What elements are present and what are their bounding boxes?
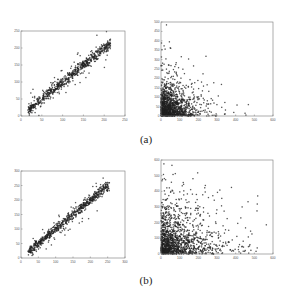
- plot-canvas: 01002003004005006000100200300400500600: [161, 160, 273, 254]
- x-tick-label: 600: [270, 118, 276, 122]
- y-tick-label: 150: [14, 213, 20, 217]
- y-tick-label: 250: [14, 29, 20, 33]
- x-tick-label: 200: [88, 260, 94, 264]
- y-tick-label: 200: [154, 221, 160, 225]
- x-tick-label: 0: [20, 118, 22, 122]
- x-tick-label: 300: [214, 118, 220, 122]
- data-points: [27, 31, 111, 116]
- scatter-plot-a-right: 0100200300400500600050100150200250300350…: [161, 22, 273, 116]
- x-tick-label: 0: [160, 256, 162, 260]
- y-tick-label: 450: [154, 29, 160, 33]
- y-tick-label: 400: [154, 39, 160, 43]
- y-tick-label: 0: [18, 256, 20, 260]
- x-tick-label: 150: [70, 260, 76, 264]
- y-tick-label: 250: [154, 67, 160, 71]
- y-tick-label: 0: [158, 252, 160, 256]
- data-points: [160, 163, 267, 255]
- y-tick-label: 200: [14, 198, 20, 202]
- caption-b: (b): [126, 274, 166, 286]
- x-tick-label: 200: [196, 118, 202, 122]
- y-tick-label: 0: [18, 114, 20, 118]
- y-tick-label: 200: [154, 76, 160, 80]
- y-tick-label: 500: [154, 20, 160, 24]
- y-tick-label: 400: [154, 189, 160, 193]
- y-tick-label: 50: [16, 97, 20, 101]
- y-tick-label: 200: [14, 46, 20, 50]
- y-tick-label: 350: [154, 48, 160, 52]
- x-tick-label: 0: [20, 260, 22, 264]
- x-tick-label: 200: [196, 256, 202, 260]
- plot-canvas: 050100150200250050100150200250: [21, 31, 125, 116]
- x-tick-label: 300: [214, 256, 220, 260]
- y-tick-label: 600: [154, 158, 160, 162]
- y-tick-label: 500: [154, 174, 160, 178]
- y-tick-label: 300: [154, 58, 160, 62]
- plot-canvas: 050100150200250300050100150200250300: [21, 171, 125, 258]
- caption-a: (a): [126, 133, 166, 145]
- x-tick-label: 500: [252, 118, 258, 122]
- x-tick-label: 200: [102, 118, 108, 122]
- y-tick-label: 150: [14, 63, 20, 67]
- y-tick-label: 300: [14, 169, 20, 173]
- y-tick-label: 50: [16, 242, 20, 246]
- x-tick-label: 250: [122, 118, 128, 122]
- x-tick-label: 400: [233, 256, 239, 260]
- y-tick-label: 150: [154, 86, 160, 90]
- y-tick-label: 50: [156, 105, 160, 109]
- x-tick-label: 150: [81, 118, 87, 122]
- x-tick-label: 600: [270, 256, 276, 260]
- plot-canvas: 0100200300400500600050100150200250300350…: [161, 22, 273, 116]
- y-tick-label: 100: [14, 80, 20, 84]
- x-tick-label: 0: [160, 118, 162, 122]
- x-tick-label: 100: [177, 256, 183, 260]
- x-tick-label: 100: [60, 118, 66, 122]
- x-tick-label: 250: [105, 260, 111, 264]
- scatter-plot-b-left: 050100150200250300050100150200250300: [21, 171, 125, 258]
- data-points: [27, 177, 110, 256]
- x-tick-label: 100: [177, 118, 183, 122]
- scatter-plot-b-right: 01002003004005006000100200300400500600: [161, 160, 273, 254]
- x-tick-label: 500: [252, 256, 258, 260]
- y-tick-label: 250: [14, 184, 20, 188]
- x-tick-label: 300: [122, 260, 128, 264]
- y-tick-label: 100: [154, 95, 160, 99]
- y-tick-label: 100: [14, 227, 20, 231]
- x-tick-label: 400: [233, 118, 239, 122]
- y-tick-label: 300: [154, 205, 160, 209]
- scatter-plot-a-left: 050100150200250050100150200250: [21, 31, 125, 116]
- y-tick-label: 0: [158, 114, 160, 118]
- x-tick-label: 50: [37, 260, 41, 264]
- y-tick-label: 100: [154, 236, 160, 240]
- x-tick-label: 50: [40, 118, 44, 122]
- data-points: [160, 24, 249, 117]
- x-tick-label: 100: [53, 260, 59, 264]
